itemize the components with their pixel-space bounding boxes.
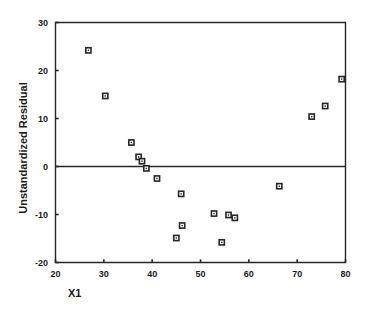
data-point [309, 114, 314, 119]
data-point [277, 184, 282, 189]
data-point [232, 215, 237, 220]
data-points-group [86, 48, 344, 245]
axes-group [56, 23, 346, 263]
data-point [144, 166, 149, 171]
scatter-plot-figure: Unstandardized Residual X1 3020100-10-20… [0, 0, 368, 315]
data-point-center [141, 161, 142, 162]
data-point-center [228, 214, 229, 215]
plot-frame [56, 23, 346, 263]
data-point [129, 140, 134, 145]
data-point [219, 240, 224, 245]
data-point-center [341, 78, 342, 79]
data-point [154, 176, 159, 181]
data-point-center [311, 116, 312, 117]
data-point-center [176, 237, 177, 238]
data-point-center [105, 95, 106, 96]
data-point [86, 48, 91, 53]
data-point [211, 211, 216, 216]
data-point-center [146, 168, 147, 169]
data-point [103, 93, 108, 98]
data-point-center [279, 185, 280, 186]
data-point-center [131, 142, 132, 143]
data-point [179, 191, 184, 196]
data-point [174, 235, 179, 240]
data-point [226, 212, 231, 217]
data-point-center [213, 213, 214, 214]
data-point-center [325, 105, 326, 106]
data-point-center [156, 178, 157, 179]
data-point-center [180, 193, 181, 194]
data-point-center [234, 217, 235, 218]
data-point [323, 103, 328, 108]
data-point [180, 223, 185, 228]
data-point-center [138, 156, 139, 157]
data-point [139, 159, 144, 164]
data-point-center [88, 50, 89, 51]
data-point-center [221, 242, 222, 243]
data-point [339, 77, 344, 82]
data-point-center [181, 225, 182, 226]
plot-area [0, 0, 368, 315]
